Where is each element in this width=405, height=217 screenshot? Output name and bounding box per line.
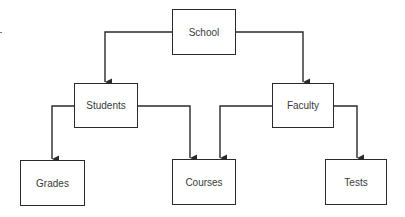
- node-school: School: [172, 9, 236, 55]
- node-label: Faculty: [287, 100, 319, 111]
- edge-faculty-tests: [334, 106, 357, 158]
- edge-faculty-courses: [220, 106, 272, 158]
- edge-students-courses: [138, 106, 190, 158]
- node-label: School: [189, 27, 220, 38]
- node-label: Students: [86, 100, 125, 111]
- node-students: Students: [74, 83, 138, 128]
- edge-school-students: [105, 32, 172, 82]
- node-tests: Tests: [325, 159, 387, 205]
- node-label: Courses: [185, 177, 222, 188]
- node-faculty: Faculty: [272, 83, 334, 128]
- hierarchy-diagram: School Students Faculty Grades Courses T…: [0, 0, 405, 217]
- edge-school-faculty: [236, 32, 303, 82]
- node-label: Grades: [36, 178, 69, 189]
- node-grades: Grades: [20, 160, 85, 206]
- node-courses: Courses: [172, 159, 236, 205]
- node-label: Tests: [344, 177, 367, 188]
- edge-students-grades: [52, 106, 74, 159]
